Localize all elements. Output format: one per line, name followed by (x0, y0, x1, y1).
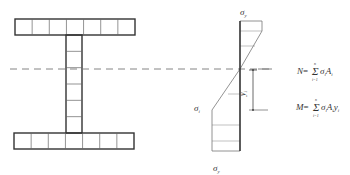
svg-text:Σ: Σ (311, 65, 319, 77)
bottom-flange (14, 133, 134, 149)
svg-text:σiAiyi: σiAiyi (321, 102, 340, 113)
svg-text:n: n (314, 61, 316, 66)
svg-text:N=: N= (296, 66, 308, 76)
svg-text:M=: M= (295, 102, 309, 112)
formula-n: N= Σ n i=1 σiAi (296, 61, 333, 82)
stress-hatching (212, 31, 262, 141)
sigma-i-label: σi (194, 103, 200, 114)
svg-text:σiAi: σiAi (320, 66, 333, 77)
svg-text:i=1: i=1 (312, 77, 318, 82)
dimension-arrow-top (252, 69, 254, 71)
top-flange (15, 19, 135, 35)
sigma-y-bottom-label: σy (213, 163, 220, 174)
sigma-y-top-label: σy (240, 7, 247, 18)
i-section (14, 19, 135, 149)
svg-text:Σ: Σ (312, 101, 320, 113)
stress-diagram (212, 21, 268, 151)
diagram-canvas: σy σy σi yi N= Σ n i=1 σiAi M= Σ n i=1 σ… (0, 0, 350, 175)
svg-text:i=1: i=1 (313, 113, 319, 118)
formula-m: M= Σ n i=1 σiAiyi (295, 97, 340, 118)
dimension-arrow-bottom (252, 109, 254, 111)
svg-text:n: n (315, 97, 317, 102)
stress-profile (212, 21, 262, 151)
